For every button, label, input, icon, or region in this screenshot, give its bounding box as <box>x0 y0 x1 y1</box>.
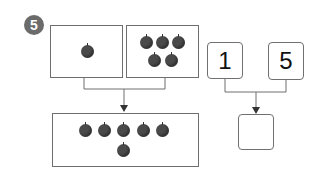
arrow-down-icon <box>252 107 260 114</box>
connector-lines <box>0 0 321 176</box>
arrow-down-icon <box>120 105 128 112</box>
